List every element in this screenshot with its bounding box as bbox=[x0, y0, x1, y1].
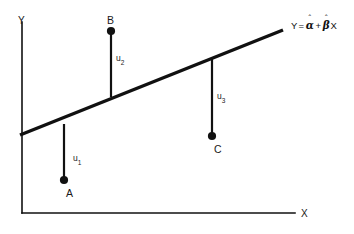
residual-label-3-subscript: 3 bbox=[222, 97, 226, 104]
data-point-a bbox=[60, 176, 68, 184]
equation-beta-hat: ˆβ bbox=[322, 19, 330, 31]
residual-label-1-subscript: 1 bbox=[78, 159, 82, 166]
residual-label-1: u1 bbox=[73, 154, 81, 163]
equation-plus: + bbox=[315, 20, 323, 31]
residual-label-2-subscript: 2 bbox=[121, 59, 125, 66]
beta-hat-caret: ˆ bbox=[324, 15, 328, 23]
data-point-label-a: A bbox=[66, 188, 73, 199]
data-point-label-c: C bbox=[214, 144, 222, 155]
equation-alpha-hat: ˆα bbox=[305, 19, 314, 31]
data-point-c bbox=[208, 132, 216, 140]
x-axis-label: X bbox=[301, 209, 308, 219]
y-axis-label: Y bbox=[18, 16, 25, 26]
data-point-label-b: B bbox=[107, 15, 114, 26]
equation-x-var: X bbox=[331, 20, 338, 31]
equation-equals: = bbox=[298, 20, 306, 31]
plot-canvas bbox=[0, 0, 354, 234]
alpha-hat-caret: ˆ bbox=[308, 15, 312, 23]
data-point-b bbox=[107, 27, 115, 35]
regression-residual-diagram: Y X A B C u1 u2 u3 Y=ˆα+ˆβX bbox=[0, 0, 354, 234]
regression-equation-label: Y=ˆα+ˆβX bbox=[291, 19, 337, 31]
residual-label-2: u2 bbox=[116, 54, 124, 63]
residual-label-3: u3 bbox=[217, 92, 225, 101]
equation-lhs: Y bbox=[291, 20, 298, 31]
regression-line bbox=[20, 30, 283, 135]
